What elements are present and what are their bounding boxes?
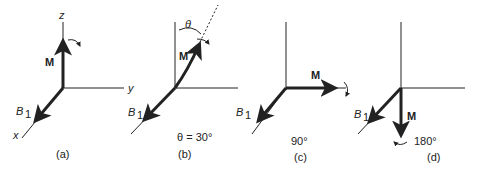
panel-c: M B 1 90° (c) (236, 22, 348, 163)
b1-subscript: 1 (245, 109, 251, 121)
m-label: M (45, 56, 54, 68)
angle-label: 180° (414, 135, 437, 147)
dashed-axis (200, 5, 218, 42)
x-label: x (12, 129, 19, 141)
b1-label: B (354, 108, 361, 120)
panel-a: z y x M B 1 (a) (12, 9, 135, 160)
theta-label: θ (185, 18, 191, 30)
rotation-arrow-icon (197, 39, 209, 44)
m-label: M (311, 69, 320, 81)
b1-label: B (16, 105, 23, 117)
caption-d: (d) (427, 151, 440, 163)
magnetization-diagram: z y x M B 1 (a) θ M B 1 θ = 30° (b) M B … (0, 0, 479, 173)
angle-label: 90° (291, 135, 308, 147)
b1-subscript: 1 (363, 111, 369, 123)
b1-subscript: 1 (137, 109, 143, 121)
z-label: z (58, 9, 65, 21)
panel-d: M B 1 180° (d) (354, 22, 465, 163)
angle-label: θ = 30° (177, 131, 212, 143)
caption-a: (a) (56, 148, 69, 160)
m-label: M (407, 110, 416, 122)
rotation-arrow-icon (344, 82, 348, 96)
rotation-arrow-icon (394, 142, 407, 145)
caption-b: (b) (178, 148, 191, 160)
b1-label: B (128, 106, 135, 118)
b1-subscript: 1 (25, 108, 31, 120)
b1-label: B (236, 106, 243, 118)
y-label: y (127, 82, 135, 94)
precession-arrow-icon (68, 40, 80, 46)
b1-vector (259, 88, 286, 120)
caption-c: (c) (294, 151, 307, 163)
b1-vector (145, 88, 175, 119)
m-label: M (179, 50, 188, 62)
b1-vector (36, 88, 63, 120)
b1-vector (370, 88, 401, 121)
panel-b: θ M B 1 θ = 30° (b) (128, 5, 238, 160)
